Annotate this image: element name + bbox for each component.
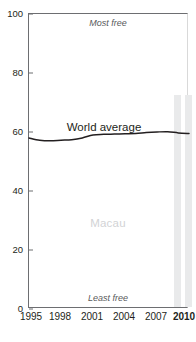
macau-watermark-label: Macau bbox=[90, 217, 126, 229]
x-tick-label: 1995 bbox=[20, 312, 42, 322]
economic-freedom-chart: Economic freedom 020406080100 Most free … bbox=[0, 0, 196, 342]
y-tick-label: 100 bbox=[7, 9, 29, 19]
chart-title-clipped: Economic freedom bbox=[0, 0, 196, 2]
y-tick-label: 20 bbox=[12, 245, 29, 255]
x-tick-label: 1998 bbox=[49, 312, 71, 322]
x-tick-label: 2007 bbox=[145, 312, 167, 322]
x-tick-label: 2004 bbox=[113, 312, 135, 322]
chart-title: Economic freedom bbox=[56, 0, 196, 2]
y-tick-label: 40 bbox=[12, 186, 29, 196]
world-average-label: World average bbox=[67, 121, 142, 133]
least-free-annotation: Least free bbox=[88, 293, 128, 303]
x-axis: 199519982001200420072010 bbox=[28, 312, 188, 332]
x-tick-label: 2010 bbox=[173, 312, 195, 322]
y-tick-label: 60 bbox=[12, 127, 29, 137]
x-tick-label: 2001 bbox=[81, 312, 103, 322]
y-tick-label: 80 bbox=[12, 68, 29, 78]
most-free-annotation: Most free bbox=[89, 18, 127, 28]
line-series-world-average bbox=[29, 14, 189, 309]
plot-area: 020406080100 Most free Least free Macau … bbox=[28, 13, 188, 308]
